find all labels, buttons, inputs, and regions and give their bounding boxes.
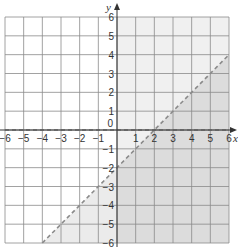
y-tick-label: 6 <box>108 12 114 23</box>
x-tick-label: −6 <box>0 133 11 144</box>
x-tick-label: −2 <box>74 133 86 144</box>
x-tick-label: 1 <box>133 133 139 144</box>
y-tick-label: 1 <box>108 106 114 117</box>
y-tick-label: −6 <box>103 238 115 249</box>
inequality-graph: yx−6−5−4−3−2−1123456654321−1−2−3−4−5−60 <box>0 0 238 250</box>
y-tick-label: −5 <box>103 219 115 230</box>
y-tick-label: −4 <box>103 200 115 211</box>
x-tick-label: 3 <box>170 133 176 144</box>
x-axis-label: x <box>232 132 238 144</box>
x-tick-label: −4 <box>37 133 49 144</box>
y-tick-label: 3 <box>108 69 114 80</box>
y-tick-label: −3 <box>103 182 115 193</box>
y-tick-label: 5 <box>108 31 114 42</box>
y-tick-label: −1 <box>103 144 115 155</box>
x-tick-label: −3 <box>55 133 67 144</box>
y-tick-label: −2 <box>103 163 115 174</box>
x-tick-label: 5 <box>208 133 214 144</box>
x-tick-label: 2 <box>152 133 158 144</box>
x-tick-label: −1 <box>93 133 105 144</box>
x-tick-label: 6 <box>226 133 232 144</box>
x-tick-label: 4 <box>189 133 195 144</box>
y-tick-label: 2 <box>108 87 114 98</box>
y-axis-arrow-icon <box>114 3 120 10</box>
y-tick-label: 4 <box>108 50 114 61</box>
x-tick-label: −5 <box>18 133 30 144</box>
origin-label: 0 <box>107 118 113 129</box>
